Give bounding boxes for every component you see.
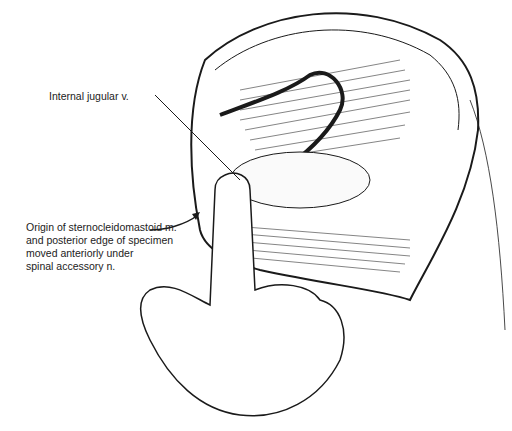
illustration <box>0 0 512 431</box>
label-line: Origin of sternocleidomastoid m. <box>26 221 177 234</box>
label-internal-jugular-vein: Internal jugular v. <box>49 90 129 103</box>
label-sternocleidomastoid-origin: Origin of sternocleidomastoid m. and pos… <box>26 221 177 273</box>
label-line: moved anteriorly under <box>26 247 177 260</box>
label-line: spinal accessory n. <box>26 260 177 273</box>
neck-contour <box>470 100 505 330</box>
label-line: and posterior edge of specimen <box>26 234 177 247</box>
ijv-leader <box>155 95 240 180</box>
vessel <box>220 73 343 165</box>
hand <box>141 173 344 416</box>
